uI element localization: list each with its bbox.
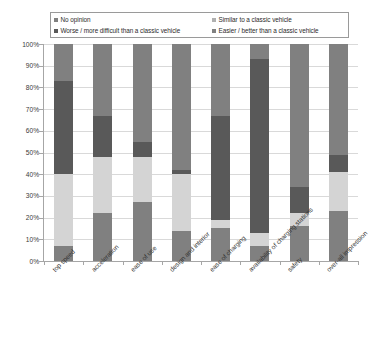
y-tick-mark: [39, 131, 43, 132]
y-tick-mark: [39, 174, 43, 175]
bar-group[interactable]: [93, 44, 112, 261]
bar-segment[interactable]: [211, 44, 230, 116]
x-tick-mark: [162, 261, 163, 265]
x-tick-mark: [240, 261, 241, 265]
y-tick-mark: [39, 87, 43, 88]
bar-segment[interactable]: [250, 233, 269, 246]
y-tick-label: 60%: [11, 127, 39, 134]
bar-segment[interactable]: [54, 174, 73, 246]
y-tick-label: 0%: [11, 258, 39, 265]
legend-swatch-easier: [212, 29, 216, 33]
chart-legend: No opinion Similar to a classic vehicle …: [50, 12, 349, 38]
x-tick-mark: [201, 261, 202, 265]
bar-stack: [93, 44, 112, 261]
bar-stack: [211, 44, 230, 261]
x-tick-mark: [358, 261, 359, 265]
bar-stack: [172, 44, 191, 261]
legend-swatch-no-opinion: [54, 18, 58, 22]
legend-item-similar: Similar to a classic vehicle: [212, 14, 345, 25]
bar-segment[interactable]: [211, 220, 230, 229]
bar-segment[interactable]: [329, 44, 348, 155]
bar-segment[interactable]: [250, 44, 269, 59]
x-tick-mark: [123, 261, 124, 265]
bar-segment[interactable]: [172, 44, 191, 170]
y-tick-label: 20%: [11, 214, 39, 221]
bar-segment[interactable]: [93, 116, 112, 157]
bar-segment[interactable]: [329, 172, 348, 211]
y-tick-mark: [39, 109, 43, 110]
y-tick-mark: [39, 196, 43, 197]
bar-segment[interactable]: [172, 174, 191, 230]
y-tick-label: 10%: [11, 236, 39, 243]
bar-series-layer: [44, 44, 358, 261]
legend-label-no-opinion: No opinion: [61, 16, 91, 23]
y-tick-mark: [39, 66, 43, 67]
bar-stack: [133, 44, 152, 261]
y-tick-label: 40%: [11, 171, 39, 178]
bar-group[interactable]: [329, 44, 348, 261]
bar-segment[interactable]: [133, 157, 152, 203]
y-tick-mark: [39, 239, 43, 240]
bar-segment[interactable]: [54, 81, 73, 174]
x-tick-mark: [319, 261, 320, 265]
bar-segment[interactable]: [250, 59, 269, 233]
y-tick-label: 100%: [11, 41, 39, 48]
bar-stack: [54, 44, 73, 261]
y-tick-label: 50%: [11, 149, 39, 156]
bar-segment[interactable]: [133, 142, 152, 157]
legend-item-easier: Easier / better than a classic vehicle: [212, 25, 345, 36]
bar-segment[interactable]: [133, 44, 152, 142]
x-tick-mark: [83, 261, 84, 265]
x-tick-mark: [280, 261, 281, 265]
bar-segment[interactable]: [211, 116, 230, 220]
y-tick-label: 70%: [11, 106, 39, 113]
y-tick-label: 30%: [11, 192, 39, 199]
legend-item-no-opinion: No opinion: [54, 14, 212, 25]
x-tick-mark: [44, 261, 45, 265]
legend-label-worse: Worse / more difficult than a classic ve…: [61, 27, 181, 34]
bar-segment[interactable]: [329, 155, 348, 172]
bar-segment[interactable]: [172, 170, 191, 174]
bar-group[interactable]: [54, 44, 73, 261]
legend-swatch-worse: [54, 29, 58, 33]
legend-swatch-similar: [212, 18, 216, 22]
legend-label-easier: Easier / better than a classic vehicle: [219, 27, 319, 34]
y-tick-label: 90%: [11, 62, 39, 69]
bar-segment[interactable]: [290, 44, 309, 187]
bar-segment[interactable]: [93, 157, 112, 213]
y-tick-label: 80%: [11, 84, 39, 91]
bar-stack: [250, 44, 269, 261]
bar-group[interactable]: [172, 44, 191, 261]
y-tick-mark: [39, 44, 43, 45]
y-tick-mark: [39, 153, 43, 154]
bar-group[interactable]: [250, 44, 269, 261]
legend-item-worse: Worse / more difficult than a classic ve…: [54, 25, 212, 36]
bar-segment[interactable]: [54, 44, 73, 81]
bar-segment[interactable]: [93, 44, 112, 116]
bar-stack: [329, 44, 348, 261]
bar-group[interactable]: [211, 44, 230, 261]
legend-label-similar: Similar to a classic vehicle: [219, 16, 292, 23]
bar-group[interactable]: [133, 44, 152, 261]
y-tick-mark: [39, 218, 43, 219]
